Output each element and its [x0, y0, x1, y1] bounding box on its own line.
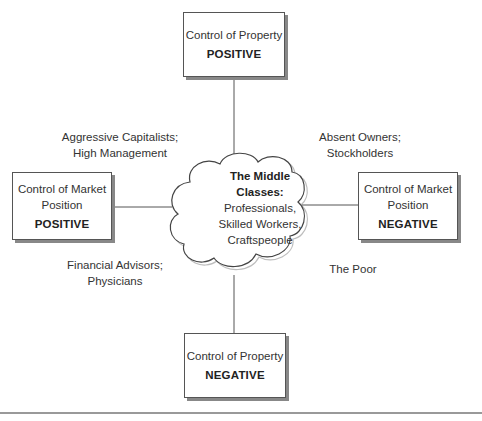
label-line2: High Management	[50, 145, 190, 161]
quadrant-top-right-label: Absent Owners; Stockholders	[310, 129, 410, 161]
class-position-diagram: Control of Property POSITIVE Control of …	[0, 0, 482, 421]
box-title: Control of Property	[187, 348, 284, 364]
cloud-line1: Professionals,	[210, 200, 310, 216]
cloud-heading-line1: The Middle	[210, 168, 310, 184]
box-value: NEGATIVE	[205, 367, 265, 383]
cloud-line2: Skilled Workers,	[210, 216, 310, 232]
label-line1: Absent Owners;	[310, 129, 410, 145]
quadrant-top-left-label: Aggressive Capitalists; High Management	[50, 129, 190, 161]
quadrant-bottom-right-label: The Poor	[318, 261, 388, 277]
box-title: Control of Property	[186, 27, 283, 43]
quadrant-bottom-left-label: Financial Advisors; Physicians	[55, 257, 175, 289]
box-title-line1: Control of Market	[18, 181, 106, 197]
top-box-property-positive: Control of Property POSITIVE	[183, 12, 285, 77]
box-value: POSITIVE	[207, 46, 262, 62]
center-cloud-middle-classes: The Middle Classes: Professionals, Skill…	[210, 168, 310, 248]
label-line1: The Poor	[318, 261, 388, 277]
label-line1: Aggressive Capitalists;	[50, 129, 190, 145]
cloud-line3: Craftspeople	[210, 232, 310, 248]
bottom-divider	[0, 412, 482, 414]
label-line2: Physicians	[55, 273, 175, 289]
cloud-heading-line2: Classes:	[210, 184, 310, 200]
box-title-line1: Control of Market	[364, 181, 452, 197]
bottom-box-property-negative: Control of Property NEGATIVE	[184, 333, 286, 398]
left-box-market-positive: Control of Market Position POSITIVE	[12, 172, 112, 240]
box-title-line2: Position	[388, 197, 429, 213]
right-box-market-negative: Control of Market Position NEGATIVE	[358, 172, 458, 240]
box-value: POSITIVE	[35, 216, 90, 232]
box-title-line2: Position	[42, 197, 83, 213]
label-line2: Stockholders	[310, 145, 410, 161]
box-value: NEGATIVE	[378, 216, 438, 232]
label-line1: Financial Advisors;	[55, 257, 175, 273]
